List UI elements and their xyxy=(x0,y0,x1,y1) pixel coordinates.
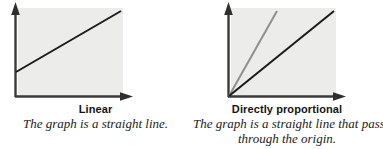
directly-proportional-description: The graph is a straight line that passes… xyxy=(191,117,383,146)
directly-proportional-caption-block: Directly proportional The graph is a str… xyxy=(191,103,383,146)
directly-proportional-graph xyxy=(191,0,383,104)
linear-description: The graph is a straight line. xyxy=(0,117,191,132)
linear-description-line-1: The graph is a straight line. xyxy=(2,117,189,132)
linear-term-label: Linear xyxy=(0,103,191,116)
panel-directly-proportional: Directly proportional The graph is a str… xyxy=(191,0,383,149)
panel-linear: Linear The graph is a straight line. xyxy=(0,0,191,149)
directly-proportional-term-label: Directly proportional xyxy=(191,103,383,116)
concept-comparison-figure: Linear The graph is a straight line. xyxy=(0,0,383,149)
directly-proportional-description-line-1: The graph is a straight line that passes xyxy=(193,117,381,132)
linear-caption-block: Linear The graph is a straight line. xyxy=(0,103,191,132)
linear-graph xyxy=(0,0,191,104)
plot-background xyxy=(18,8,123,96)
directly-proportional-description-line-2: through the origin. xyxy=(193,132,381,147)
